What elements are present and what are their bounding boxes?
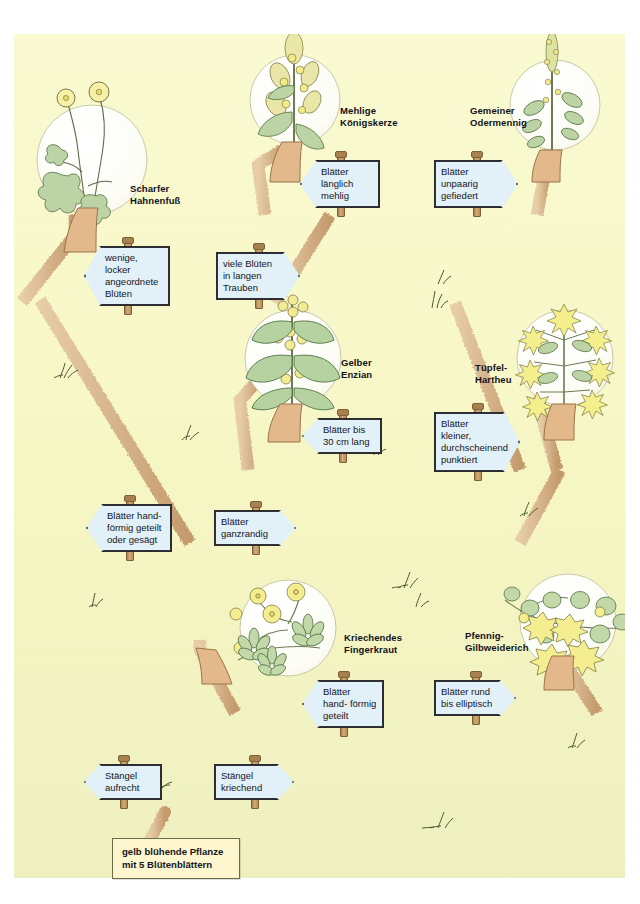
sign-blaetter-handfoermig-geteilt[interactable]: Blätter hand- förmig geteilt	[302, 680, 384, 728]
signpost-cap	[335, 151, 347, 158]
signpost-cap	[471, 151, 483, 158]
sign-label: viele Blüten in langen Trauben	[216, 252, 300, 300]
sign-blaetter-handfoermig-gesaegt[interactable]: Blätter hand- förmig geteilt oder gesägt	[86, 504, 172, 552]
sign-blaetter-laenglich-mehlig[interactable]: Blätter länglich mehlig	[300, 160, 380, 208]
root-result-box: gelb blühende Pflanze mit 5 Blütenblätte…	[112, 838, 240, 879]
sign-label: wenige, locker angeordnete Blüten	[84, 246, 170, 306]
sign-label: Stängel aufrecht	[84, 764, 162, 800]
sign-blaetter-kleiner-punktiert[interactable]: Blätter kleiner, durchscheinend punktier…	[434, 412, 520, 472]
signpost-cap	[118, 755, 130, 762]
sign-label: Blätter länglich mehlig	[300, 160, 380, 208]
caption-pfennig-gilbweiderich: Pfennig- Gilbweiderich	[465, 630, 529, 653]
sign-blaetter-bis-30cm[interactable]: Blätter bis 30 cm lang	[302, 418, 382, 454]
sign-blaetter-ganzrandig[interactable]: Blätter ganzrandig	[214, 510, 296, 546]
sign-blaetter-unpaarig-gefiedert[interactable]: Blätter unpaarig gefiedert	[434, 160, 518, 208]
sign-viele-blueten[interactable]: viele Blüten in langen Trauben	[216, 252, 300, 300]
caption-kriechendes-fingerkraut: Kriechendes Fingerkraut	[344, 632, 402, 655]
sign-label: Stängel kriechend	[214, 764, 294, 800]
sign-staengel-kriechend[interactable]: Stängel kriechend	[214, 764, 294, 800]
signpost-cap	[338, 671, 350, 678]
signpost-cap	[337, 409, 349, 416]
signpost-cap	[124, 495, 136, 502]
signpost-cap	[253, 243, 265, 250]
caption-scharfer-hahnenfuss: Scharfer Hahnenfuß	[130, 183, 181, 206]
sign-label: Blätter hand- förmig geteilt	[302, 680, 384, 728]
caption-gemeiner-odermennig: Gemeiner Odermennig	[470, 105, 527, 128]
signpost-cap	[122, 237, 134, 244]
sign-label: Blätter bis 30 cm lang	[302, 418, 382, 454]
sign-staengel-aufrecht[interactable]: Stängel aufrecht	[84, 764, 162, 800]
sign-label: Blätter rund bis elliptisch	[434, 680, 516, 716]
sign-blaetter-rund-elliptisch[interactable]: Blätter rund bis elliptisch	[434, 680, 516, 716]
sign-wenige-blueten[interactable]: wenige, locker angeordnete Blüten	[84, 246, 170, 306]
sign-label: Blätter kleiner, durchscheinend punktier…	[434, 412, 520, 472]
caption-mehlige-koenigskerze: Mehlige Königskerze	[340, 105, 398, 128]
sign-label: Blätter ganzrandig	[214, 510, 296, 546]
signpost-cap	[470, 671, 482, 678]
identification-key-figure: Scharfer Hahnenfuß Mehlige Königskerze G…	[0, 0, 640, 904]
caption-tuepfel-hartheu: Tüpfel- Hartheu	[475, 362, 512, 385]
signpost-cap	[472, 403, 484, 410]
caption-gelber-enzian: Gelber Enzian	[341, 357, 372, 380]
signpost-cap	[250, 501, 262, 508]
sign-label: Blätter hand- förmig geteilt oder gesägt	[86, 504, 172, 552]
signpost-cap	[249, 755, 261, 762]
sign-label: Blätter unpaarig gefiedert	[434, 160, 518, 208]
